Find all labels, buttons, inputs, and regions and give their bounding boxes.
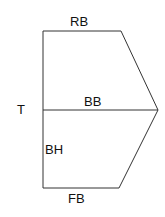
label-rb: RB bbox=[70, 15, 88, 28]
label-bb: BB bbox=[84, 95, 101, 108]
label-fb: FB bbox=[68, 192, 85, 205]
label-t: T bbox=[17, 103, 25, 116]
label-bh: BH bbox=[45, 143, 63, 156]
